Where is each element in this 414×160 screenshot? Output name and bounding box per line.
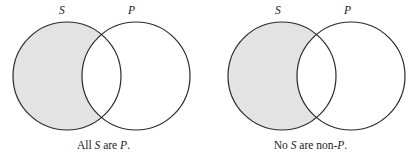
caption-all-s-are-p: All S are P. (0, 139, 207, 152)
venn-diagram-graphic-right (207, 0, 414, 136)
caption-text-part2: are non- (296, 139, 337, 151)
set-label-p: P (128, 5, 135, 17)
caption-no-s-are-non-p: No S are non-P. (207, 139, 414, 152)
set-label-p: P (344, 5, 351, 17)
shaded-region-s-outside-p (207, 0, 414, 136)
caption-text-part1: No (274, 139, 291, 151)
set-label-s: S (275, 5, 281, 17)
venn-diagram-graphic-left (0, 0, 207, 136)
venn-panel-no-s-are-non-p: S P No S are non-P. (207, 0, 414, 160)
venn-panel-all-s-are-p: S P All S are P. (0, 0, 207, 160)
caption-text-part3: . (127, 139, 130, 151)
caption-text-part3: . (344, 139, 347, 151)
caption-text-part2: are (100, 139, 120, 151)
set-label-s: S (59, 5, 65, 17)
venn-diagram-figure: S P All S are P. S P No S are non-P. (0, 0, 414, 160)
caption-text-part1: All (77, 139, 95, 151)
